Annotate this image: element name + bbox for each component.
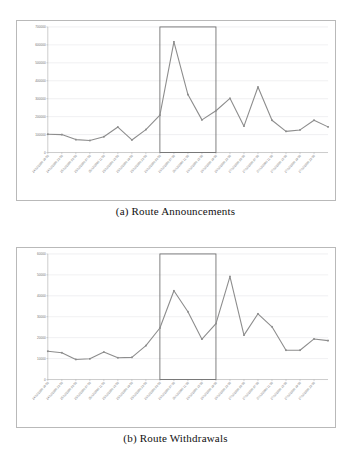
chart-b-ytick-label: 40000: [37, 294, 46, 298]
chart-b-data-point: [89, 358, 91, 360]
chart-a-data-point: [89, 140, 91, 142]
chart-b-data-point: [271, 326, 273, 328]
chart-b-data-point: [243, 334, 245, 336]
chart-a-ytick-label: 400000: [35, 79, 46, 83]
chart-a-data-point: [173, 41, 175, 43]
chart-a-highlight-rectangle: [160, 27, 216, 153]
chart-b-frame: 0100002000030000400005000060000 24/12/20…: [16, 247, 336, 428]
figure-route-announcements: 0100000200000300000400000500000600000700…: [0, 0, 351, 227]
chart-b-data-point: [131, 357, 133, 359]
chart-b-data-point: [215, 323, 217, 325]
chart-b-data-point: [75, 359, 77, 361]
chart-a-data-point: [75, 139, 77, 141]
chart-b-data-point: [299, 349, 301, 351]
chart-a-ytick-label: 100000: [35, 133, 46, 137]
chart-a-series: [47, 41, 329, 141]
chart-a-data-point: [313, 119, 315, 121]
chart-a-data-point: [47, 133, 49, 135]
figure-page: 0100000200000300000400000500000600000700…: [0, 0, 351, 454]
chart-b-data-point: [313, 338, 315, 340]
chart-b-data-point: [117, 357, 119, 359]
chart-a-ytick-label: 600000: [35, 43, 46, 47]
chart-a-data-point: [285, 131, 287, 133]
caption-route-withdrawals: (b) Route Withdrawals: [0, 432, 351, 444]
chart-a-data-point: [145, 129, 147, 131]
chart-b-data-point: [229, 276, 231, 278]
chart-a-data-point: [229, 98, 231, 100]
chart-b-data-point: [201, 338, 203, 340]
chart-b-ytick-label: 10000: [37, 357, 46, 361]
chart-a-ytick-label: 300000: [35, 97, 46, 101]
chart-a-frame: 0100000200000300000400000500000600000700…: [16, 20, 336, 201]
chart-a-data-point: [257, 86, 259, 88]
chart-a-ytick-label: 200000: [35, 115, 46, 119]
chart-a-data-point: [61, 134, 63, 136]
chart-a-highlight: [160, 27, 216, 153]
chart-a-data-point: [117, 126, 119, 128]
chart-a-canvas: 0100000200000300000400000500000600000700…: [17, 21, 335, 200]
chart-b-series: [47, 276, 329, 361]
chart-a-data-point: [131, 139, 133, 141]
chart-b-data-point: [61, 352, 63, 354]
chart-a-data-point: [243, 125, 245, 127]
chart-a-xticks: 24/12/2006 19:5524/12/2006 23:5525/12/20…: [31, 154, 316, 174]
chart-b-canvas: 0100002000030000400005000060000 24/12/20…: [17, 248, 335, 427]
chart-b-data-point: [103, 351, 105, 353]
chart-b-ytick-label: 50000: [37, 273, 46, 277]
chart-b-data-point: [187, 311, 189, 313]
chart-a-ytick-label: 700000: [35, 25, 46, 29]
chart-b-data-point: [285, 349, 287, 351]
chart-b-data-point: [327, 340, 329, 342]
chart-a-data-point: [327, 126, 329, 128]
chart-b-gridlines: [46, 254, 328, 381]
chart-b-data-point: [47, 350, 49, 352]
chart-b-ytick-label: 60000: [37, 252, 46, 256]
chart-b-series-line: [48, 277, 328, 360]
chart-a-data-point: [299, 129, 301, 131]
chart-a-series-line: [48, 42, 328, 141]
chart-b-yticks: 0100002000030000400005000060000: [37, 252, 46, 382]
chart-b-ytick-label: 20000: [37, 336, 46, 340]
chart-b-xticks: 24/12/2006 19:5524/12/2006 23:5525/12/20…: [31, 381, 316, 401]
chart-a-data-point: [187, 94, 189, 96]
chart-a-data-point: [103, 136, 105, 138]
chart-b-data-point: [145, 345, 147, 347]
chart-a-yticks: 0100000200000300000400000500000600000700…: [35, 25, 46, 155]
chart-a-data-point: [271, 119, 273, 121]
figure-route-withdrawals: 0100002000030000400005000060000 24/12/20…: [0, 227, 351, 454]
chart-a-data-point: [159, 114, 161, 116]
chart-a-ytick-label: 500000: [35, 61, 46, 65]
chart-b-ytick-label: 30000: [37, 315, 46, 319]
chart-b-data-point: [173, 290, 175, 292]
chart-a-data-point: [215, 110, 217, 112]
chart-a-data-point: [201, 119, 203, 121]
chart-b-data-point: [257, 313, 259, 315]
caption-route-announcements: (a) Route Announcements: [0, 205, 351, 217]
chart-b-data-point: [159, 327, 161, 329]
